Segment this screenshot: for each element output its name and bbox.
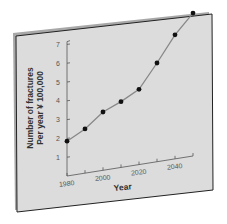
y-tick-label: 4 [56, 97, 60, 104]
chart-board: 1234567 1980200020202040 Year Number of … [0, 0, 227, 224]
data-point [137, 87, 142, 92]
y-tick-label: 5 [56, 79, 60, 86]
y-axis-title-line1: Number of fractures [25, 67, 35, 149]
y-tick-label: 3 [56, 116, 60, 123]
data-point [101, 110, 106, 115]
data-point [119, 99, 124, 104]
data-point [173, 32, 178, 37]
data-point [65, 139, 70, 144]
x-axis-title: Year [113, 181, 133, 193]
y-axis-title-line2: Per year ¥ 100,000 [35, 71, 45, 145]
data-point [191, 11, 196, 16]
y-tick-label: 7 [56, 41, 60, 48]
data-point [83, 127, 88, 132]
data-point [155, 61, 160, 66]
y-tick-label: 6 [56, 60, 60, 67]
y-tick-label: 2 [56, 135, 60, 142]
y-tick-label: 1 [56, 154, 60, 161]
